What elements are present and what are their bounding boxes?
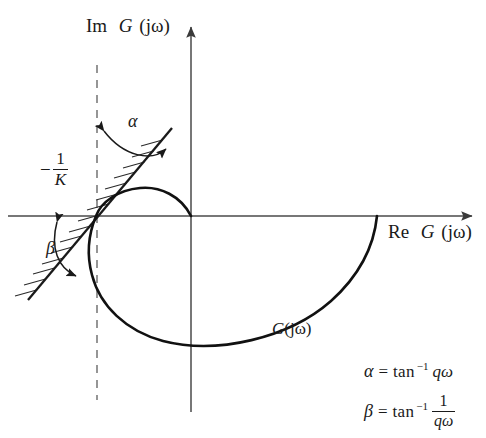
re-prefix: Re bbox=[388, 221, 409, 242]
minus-one-over-k-label: −1K bbox=[40, 150, 68, 189]
alpha-formula-function: tan bbox=[393, 363, 415, 380]
beta-fraction-denominator: qω bbox=[432, 411, 455, 430]
alpha-angle-label: α bbox=[128, 112, 137, 130]
nyquist-curve bbox=[89, 188, 377, 346]
im-arg: (jω) bbox=[139, 15, 169, 36]
im-func: G bbox=[119, 15, 133, 36]
one-over-k-fraction: 1K bbox=[53, 150, 68, 189]
beta-formula-fraction: 1qω bbox=[432, 393, 455, 430]
beta-formula: β = tan−11qω bbox=[364, 393, 455, 430]
curve-label-func: G bbox=[272, 319, 284, 338]
curve-label: G(jω) bbox=[272, 320, 312, 337]
beta-formula-exponent: −1 bbox=[416, 401, 428, 412]
re-arg: (jω) bbox=[441, 221, 471, 242]
alpha-formula-equals: = bbox=[375, 363, 391, 380]
alpha-formula-argument: qω bbox=[432, 363, 453, 380]
alpha-angle-arc bbox=[104, 131, 166, 156]
alpha-formula-symbol: α bbox=[364, 362, 373, 380]
beta-formula-symbol: β bbox=[364, 402, 373, 420]
fraction-numerator: 1 bbox=[53, 150, 68, 169]
beta-fraction-numerator: 1 bbox=[432, 393, 455, 411]
fraction-denominator: K bbox=[53, 169, 68, 189]
im-prefix: Im bbox=[86, 15, 107, 36]
beta-formula-equals: = bbox=[375, 403, 391, 420]
real-axis-label: Re G (jω) bbox=[388, 222, 472, 241]
nyquist-plot-figure: Im G (jω) Re G (jω) −1K α β G(jω) α = ta… bbox=[0, 0, 486, 438]
imaginary-axis-label: Im G (jω) bbox=[86, 16, 170, 35]
hatch-marks bbox=[15, 140, 163, 296]
beta-angle-label: β bbox=[46, 239, 55, 257]
re-func: G bbox=[421, 221, 435, 242]
curve-label-arg: (jω) bbox=[284, 319, 311, 338]
alpha-formula: α = tan−1 qω bbox=[364, 362, 453, 380]
alpha-formula-exponent: −1 bbox=[417, 361, 429, 372]
beta-formula-function: tan bbox=[393, 403, 415, 420]
minus-sign: − bbox=[40, 160, 53, 179]
